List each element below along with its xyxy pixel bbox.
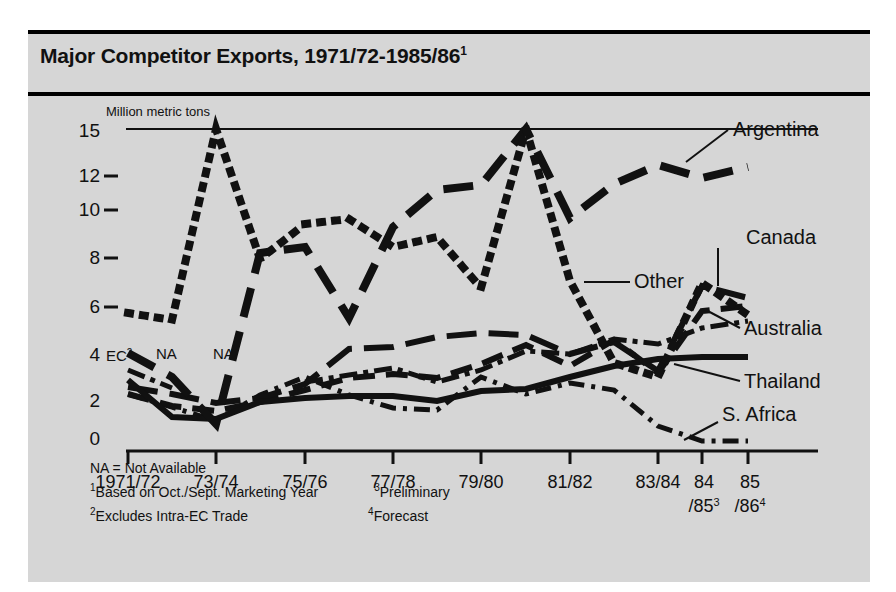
series-label-other: Other	[634, 270, 684, 292]
footnote-na: NA = Not Available	[90, 459, 450, 478]
series-label-australia: Australia	[744, 317, 823, 339]
series-line-other	[128, 129, 748, 377]
y-tick-12: 12	[79, 165, 100, 186]
y-tick-15: 15	[79, 120, 100, 141]
x-tick-label-5: 81/82	[547, 472, 592, 492]
x-tick-label-7-line2: /853	[688, 496, 719, 516]
footnote-row-1: 1Based on Oct./Sept. Marketing Year3Prel…	[90, 478, 450, 502]
footnote-row-2: 2Excludes Intra-EC Trade4Forecast	[90, 502, 450, 526]
page-title-superscript: 1	[460, 44, 466, 58]
footnotes-block: NA = Not Available 1Based on Oct./Sept. …	[90, 459, 450, 525]
x-tick-label-8-line2: /864	[734, 496, 765, 516]
series-label-argentina: Argentina	[733, 118, 819, 140]
y-tick-4: 4	[89, 344, 100, 365]
x-tick-label-8-superscript: 4	[759, 496, 765, 508]
plot-area: Million metric tons 15 12 10 8 6 4 2 0 E…	[28, 96, 870, 496]
title-bottom-rule	[28, 92, 870, 96]
ec-annotation-text: EC	[106, 347, 127, 364]
x-tick-label-7: 84	[694, 472, 714, 492]
x-tick-label-8: 85	[740, 472, 760, 492]
y-tick-6: 6	[89, 296, 100, 317]
y-tick-0: 0	[89, 428, 100, 449]
callout-line-argentina	[686, 130, 728, 162]
y-tick-8: 8	[89, 247, 100, 268]
x-tick-label-7-superscript: 3	[713, 496, 719, 508]
footnote-4: 4Forecast	[368, 502, 428, 526]
x-tick-label-4: 79/80	[458, 472, 503, 492]
x-tick-label-6: 83/84	[635, 472, 680, 492]
footnote-3-text: Preliminary	[380, 484, 450, 500]
y-tick-10: 10	[79, 199, 100, 220]
callout-line-thailand	[674, 364, 740, 381]
y-tick-2: 2	[89, 390, 100, 411]
figure-panel: Major Competitor Exports, 1971/72-1985/8…	[28, 34, 870, 582]
series-line-south-africa	[128, 377, 748, 441]
series-label-canada: Canada	[746, 226, 817, 248]
footnote-2-text: Excludes Intra-EC Trade	[96, 507, 249, 523]
y-axis-unit-label: Million metric tons	[106, 104, 211, 119]
callout-line-south-africa	[684, 422, 718, 440]
x-tick-label-8-line2-text: /86	[734, 496, 759, 516]
footnote-3: 3Preliminary	[374, 478, 450, 502]
chart-svg: Million metric tons 15 12 10 8 6 4 2 0 E…	[28, 96, 870, 496]
page-title: Major Competitor Exports, 1971/72-1985/8…	[40, 44, 467, 68]
page-title-text: Major Competitor Exports, 1971/72-1985/8…	[40, 44, 460, 67]
footnote-1-text: Based on Oct./Sept. Marketing Year	[96, 484, 319, 500]
series-label-thailand: Thailand	[744, 370, 821, 392]
na-annotation-1: NA	[156, 345, 177, 362]
footnote-4-text: Forecast	[374, 507, 428, 523]
series-label-south-africa: S. Africa	[722, 403, 797, 425]
x-tick-label-7-line2-text: /85	[688, 496, 713, 516]
